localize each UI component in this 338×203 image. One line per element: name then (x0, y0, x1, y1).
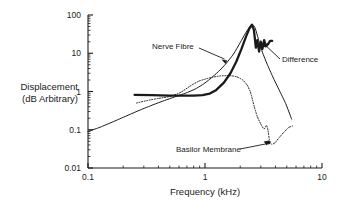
x-tick-label: 1 (203, 172, 208, 182)
annotation-marker-difference (264, 43, 268, 47)
annotation-label-difference: Difference (282, 55, 319, 64)
y-tick-label: 0.01 (64, 163, 81, 173)
y-tick-label: 100 (67, 10, 81, 20)
annotation-label-nerve-fibre: Nerve Fibre (152, 42, 194, 51)
annotation-marker-basilar-membrane (266, 141, 270, 145)
y-axis-title-line1: Displacement (20, 81, 78, 92)
chart-figure: 0.010.1110100 0.1110 Displacement (dB Ar… (0, 0, 338, 203)
annotation-label-basilar-membrane: Basilor Membrane (176, 145, 241, 154)
x-tick-label: 10 (317, 172, 327, 182)
x-tick-label: 0.1 (82, 172, 94, 182)
y-axis-title-line2: (dB Arbitrary) (22, 93, 78, 104)
y-tick-label: 0.1 (69, 125, 81, 135)
log-log-line-chart: 0.010.1110100 0.1110 Displacement (dB Ar… (0, 0, 338, 203)
x-axis-title: Frequency (kHz) (170, 186, 240, 197)
y-tick-label: 10 (72, 48, 82, 58)
